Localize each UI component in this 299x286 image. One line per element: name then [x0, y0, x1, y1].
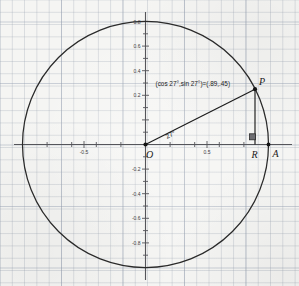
angle-label-27-degrees: 27° [164, 129, 176, 140]
axes-group [14, 12, 292, 280]
y-tick-label-neg-0-6: -0.6 [132, 215, 141, 221]
x-tick-label-pos-half: 0.5 [204, 149, 211, 155]
point-label-p: P [258, 76, 265, 87]
point-label-a: A [272, 148, 280, 159]
point-label-o: O [146, 149, 153, 160]
unit-circle-figure: -0.5 0.5 0.8 0.6 0.4 0.2 -0.2 -0.4 -0.6 … [0, 0, 299, 286]
x-tick-label-neg-half: -0.5 [80, 149, 89, 155]
y-tick-label-neg-0-8: -0.8 [132, 240, 141, 246]
point-o-dot [143, 142, 147, 146]
y-tick-label-0-2: 0.2 [134, 92, 141, 98]
unit-circle-plot: -0.5 0.5 0.8 0.6 0.4 0.2 -0.2 -0.4 -0.6 … [0, 0, 299, 286]
point-p-dot [253, 87, 257, 91]
y-tick-label-neg-0-2: -0.2 [132, 166, 141, 172]
right-angle-marker-icon [250, 134, 256, 140]
coordinate-annotation-label: (cos 27°,sin 27°)=(.89,.45) [156, 80, 231, 88]
y-tick-label-0-4: 0.4 [134, 68, 141, 74]
point-a-dot [267, 143, 271, 147]
y-tick-label-0-6: 0.6 [134, 43, 141, 49]
segment-radius-op [146, 89, 256, 144]
point-label-r: R [251, 149, 258, 160]
y-tick-label-neg-0-4: -0.4 [132, 191, 141, 197]
